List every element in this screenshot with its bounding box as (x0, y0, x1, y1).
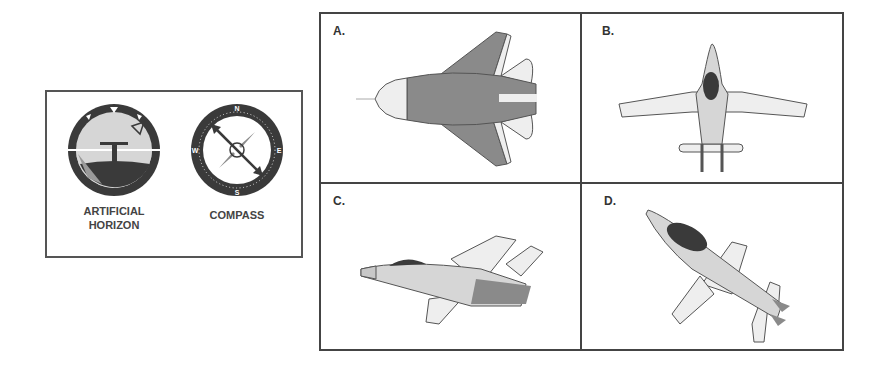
artificial-horizon: ARTIFICIAL HORIZON (59, 102, 169, 232)
compass-label: COMPASS (182, 208, 292, 222)
options-grid: A. B. C. (319, 12, 844, 351)
option-d[interactable]: D. (582, 184, 844, 351)
instruments-panel: ARTIFICIAL HORIZON N S W E COMPASS (45, 90, 303, 258)
jet-top-left-icon (321, 14, 580, 182)
option-b[interactable]: B. (582, 14, 844, 182)
svg-text:E: E (277, 147, 282, 154)
option-d-label: D. (604, 194, 616, 208)
option-c-label: C. (333, 194, 345, 208)
option-a[interactable]: A. (321, 14, 580, 182)
jet-banking-icon (321, 184, 580, 351)
option-b-label: B. (602, 24, 614, 38)
jet-top-up-icon (582, 14, 844, 182)
svg-text:W: W (192, 147, 199, 154)
artificial-horizon-label: ARTIFICIAL HORIZON (59, 204, 169, 232)
option-c[interactable]: C. (321, 184, 580, 351)
compass: N S W E COMPASS (182, 102, 292, 222)
svg-text:S: S (235, 189, 240, 196)
svg-text:N: N (234, 105, 239, 112)
jet-diving-icon (582, 184, 844, 351)
compass-icon: N S W E (189, 102, 285, 198)
artificial-horizon-icon (66, 102, 162, 198)
option-a-label: A. (333, 24, 345, 38)
